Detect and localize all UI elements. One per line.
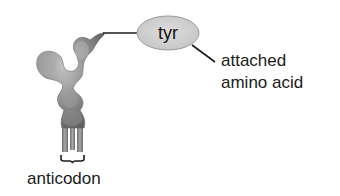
connector-amino-acid-to-label xyxy=(192,45,215,62)
anticodon-label: anticodon xyxy=(27,169,101,189)
attached-amino-acid-label: attached amino acid xyxy=(221,50,303,94)
attached-amino-acid-line2: amino acid xyxy=(221,72,303,94)
anticodon-brace xyxy=(61,155,84,163)
attached-amino-acid-line1: attached xyxy=(221,50,303,72)
amino-acid-name: tyr xyxy=(137,22,199,44)
trna-molecule xyxy=(36,33,104,152)
anticodon-stubs xyxy=(62,126,83,152)
